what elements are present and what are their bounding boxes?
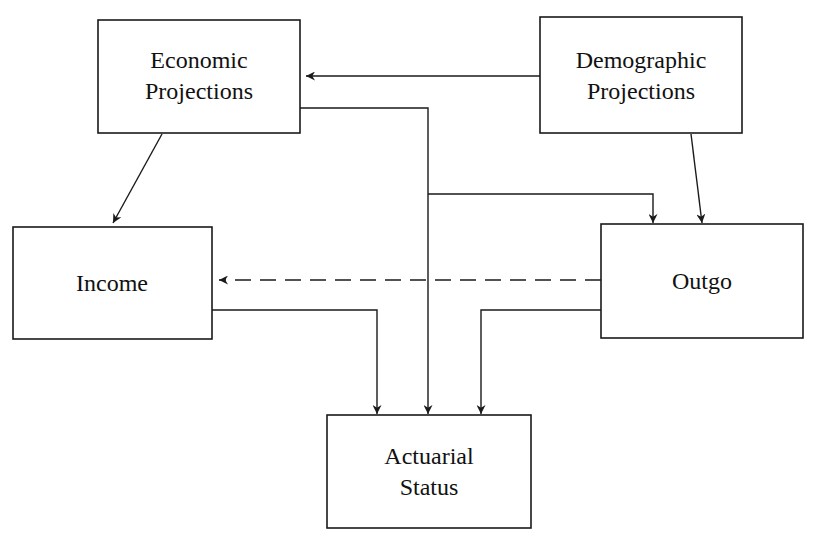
edge-outgo-to-actuarial xyxy=(481,310,601,414)
node-label-line: Income xyxy=(76,270,148,296)
node-label-line: Outgo xyxy=(672,268,732,294)
node-outgo: Outgo xyxy=(601,224,803,338)
node-economic-projections: Economic Projections xyxy=(98,20,300,133)
node-label-line: Demographic xyxy=(576,47,707,73)
edge-economic-to-outgo xyxy=(428,194,653,223)
node-label-line: Projections xyxy=(587,78,695,104)
node-label-line: Actuarial xyxy=(384,443,474,469)
node-income: Income xyxy=(13,227,212,339)
edge-economic-to-actuarial xyxy=(300,108,428,414)
node-label-line: Projections xyxy=(145,78,253,104)
flow-diagram: Economic Projections Demographic Project… xyxy=(0,0,813,544)
node-label-line: Status xyxy=(400,474,459,500)
node-label-line: Economic xyxy=(150,47,247,73)
node-demographic-projections: Demographic Projections xyxy=(540,17,742,133)
edge-demographic-to-outgo xyxy=(691,134,702,223)
node-actuarial-status: Actuarial Status xyxy=(327,415,531,528)
edge-income-to-actuarial xyxy=(212,310,377,414)
edge-economic-to-income xyxy=(113,134,162,223)
